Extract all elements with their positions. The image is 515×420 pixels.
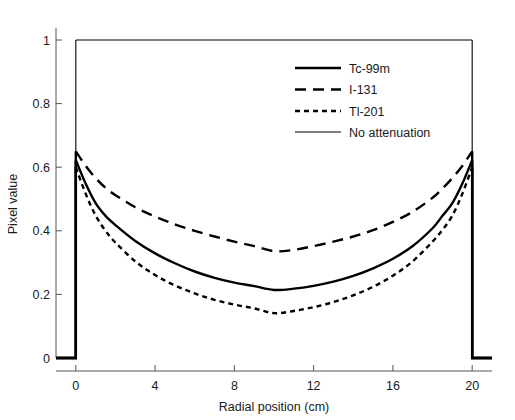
- x-tick-label: 4: [152, 379, 159, 393]
- x-tick-label: 8: [231, 379, 238, 393]
- x-axis-title: Radial position (cm): [219, 400, 329, 414]
- legend-label: Tc-99m: [349, 62, 390, 76]
- legend-label: No attenuation: [349, 126, 430, 140]
- y-tick-label: 0.2: [33, 288, 50, 302]
- y-tick-label: 0.8: [33, 97, 50, 111]
- y-tick-label: 0.6: [33, 161, 50, 175]
- y-tick-label: 0: [43, 352, 50, 366]
- chart-background: [0, 0, 515, 420]
- x-tick-label: 12: [307, 379, 321, 393]
- legend-label: I-131: [349, 83, 378, 97]
- x-tick-label: 16: [386, 379, 400, 393]
- legend-label: Tl-201: [349, 105, 384, 119]
- y-axis-title: Pixel value: [6, 174, 20, 234]
- chart-figure: 00.20.40.60.81 048121620 Tc-99mI-131Tl-2…: [0, 0, 515, 420]
- x-tick-label: 20: [465, 379, 479, 393]
- y-tick-label: 0.4: [33, 224, 50, 238]
- x-tick-label: 0: [72, 379, 79, 393]
- y-tick-label: 1: [43, 34, 50, 48]
- line-chart: 00.20.40.60.81 048121620 Tc-99mI-131Tl-2…: [0, 0, 515, 420]
